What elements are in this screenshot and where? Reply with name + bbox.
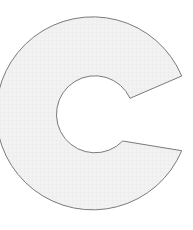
diagram-canvas [0, 0, 193, 230]
c-shape-figure [0, 0, 193, 230]
c-shape [0, 17, 182, 210]
